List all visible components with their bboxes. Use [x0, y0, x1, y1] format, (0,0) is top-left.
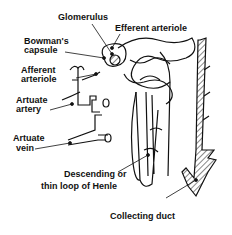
collecting-duct-shape [182, 38, 216, 196]
label-artuate-vein-line1: Artuate [13, 134, 45, 143]
label-collecting-duct: Collecting duct [110, 212, 175, 221]
label-loop-of-henle-line1: Descending or [64, 170, 127, 179]
label-afferent-arteriole-line2: arteriole [21, 75, 57, 84]
label-glomerulus: Glomerulus [58, 13, 108, 22]
label-artuate-vein-line2: vein [16, 144, 34, 153]
loop-of-henle-shape [136, 92, 158, 186]
label-bowmans-capsule-line2: capsule [24, 46, 58, 55]
glomerulus-shape [110, 55, 120, 65]
label-loop-of-henle-line2: thin loop of Henle [41, 182, 117, 191]
artuate-vein-shape [68, 115, 108, 145]
label-efferent-arteriole: Efferent arteriole [115, 24, 187, 33]
label-artuate-artery-line2: artery [16, 105, 41, 114]
